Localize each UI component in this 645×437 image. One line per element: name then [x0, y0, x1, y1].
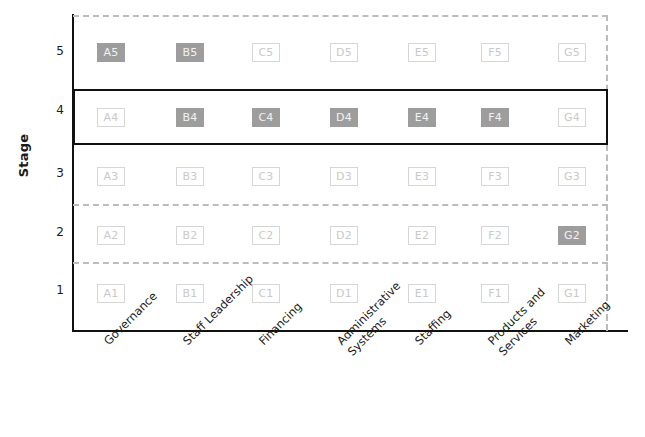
matrix-cell-b3[interactable]: B3 [176, 167, 204, 186]
matrix-cell-a5[interactable]: A5 [97, 43, 125, 62]
y-tick-label-1: 1 [44, 283, 64, 297]
matrix-cell-g1[interactable]: G1 [558, 284, 586, 303]
matrix-cell-a3[interactable]: A3 [97, 167, 125, 186]
matrix-cell-c2[interactable]: C2 [252, 226, 280, 245]
matrix-cell-d1[interactable]: D1 [330, 284, 358, 303]
matrix-cell-f3[interactable]: F3 [481, 167, 509, 186]
matrix-cell-b2[interactable]: B2 [176, 226, 204, 245]
matrix-cell-e3[interactable]: E3 [408, 167, 436, 186]
matrix-cell-e5[interactable]: E5 [408, 43, 436, 62]
row-separator-stage-1-2 [73, 262, 608, 264]
matrix-cell-f4[interactable]: F4 [481, 108, 509, 127]
matrix-cell-f5[interactable]: F5 [481, 43, 509, 62]
matrix-cell-b4[interactable]: B4 [176, 108, 204, 127]
matrix-cell-g2[interactable]: G2 [558, 226, 586, 245]
matrix-cell-c1[interactable]: C1 [252, 284, 280, 303]
matrix-cell-g5[interactable]: G5 [558, 43, 586, 62]
matrix-cell-f2[interactable]: F2 [481, 226, 509, 245]
matrix-cell-e2[interactable]: E2 [408, 226, 436, 245]
stage-matrix-chart: Stage 54321 A5B5C5D5E5F5G5A4B4C4D4E4F4G4… [0, 0, 645, 437]
y-axis-title: Stage [16, 111, 31, 201]
y-tick-label-4: 4 [44, 103, 64, 117]
matrix-cell-d2[interactable]: D2 [330, 226, 358, 245]
row-separator-stage-2-3 [73, 204, 608, 206]
matrix-cell-c3[interactable]: C3 [252, 167, 280, 186]
matrix-cell-g3[interactable]: G3 [558, 167, 586, 186]
y-tick-label-5: 5 [44, 44, 64, 58]
matrix-cell-d5[interactable]: D5 [330, 43, 358, 62]
y-tick-label-3: 3 [44, 166, 64, 180]
matrix-cell-d4[interactable]: D4 [330, 108, 358, 127]
matrix-cell-c5[interactable]: C5 [252, 43, 280, 62]
matrix-cell-a1[interactable]: A1 [97, 284, 125, 303]
matrix-cell-e4[interactable]: E4 [408, 108, 436, 127]
matrix-cell-g4[interactable]: G4 [558, 108, 586, 127]
matrix-cell-b5[interactable]: B5 [176, 43, 204, 62]
matrix-cell-a4[interactable]: A4 [97, 108, 125, 127]
y-tick-label-2: 2 [44, 225, 64, 239]
matrix-cell-c4[interactable]: C4 [252, 108, 280, 127]
matrix-cell-f1[interactable]: F1 [481, 284, 509, 303]
plot-area-right-dashed-edge [606, 15, 608, 331]
matrix-cell-d3[interactable]: D3 [330, 167, 358, 186]
matrix-cell-a2[interactable]: A2 [97, 226, 125, 245]
matrix-cell-b1[interactable]: B1 [176, 284, 204, 303]
